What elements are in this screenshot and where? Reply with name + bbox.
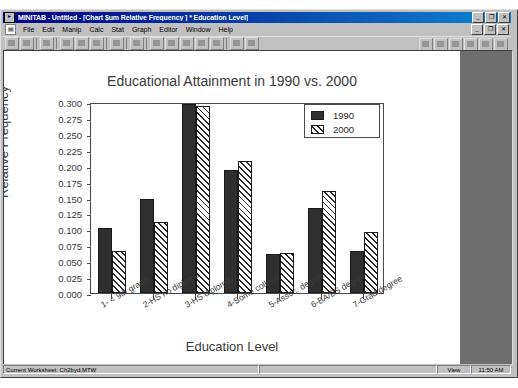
open-worksheet-icon[interactable]	[5, 37, 19, 50]
mdi-client-area: Educational Attainment in 1990 vs. 2000 …	[3, 50, 513, 365]
document-icon[interactable]: ▤	[5, 24, 16, 35]
y-tick-label: 0.125	[58, 209, 82, 220]
child-restore-button[interactable]: ❐	[484, 24, 496, 35]
bar-2000[interactable]	[196, 106, 210, 293]
menu-bar: ▤ File Edit Manip Calc Stat Graph Editor…	[3, 24, 511, 35]
toolbar-separator	[55, 38, 59, 49]
menu-item-calc[interactable]: Calc	[85, 25, 107, 35]
minimize-button[interactable]: _	[472, 12, 484, 23]
y-tick-label: 0.275	[58, 113, 82, 124]
toolbar	[3, 36, 511, 49]
y-tick-label: 0.025	[58, 273, 82, 284]
x-axis-title: Education Level	[4, 339, 460, 354]
save-project-icon[interactable]	[20, 37, 34, 50]
window-controls: _ ❐ ✕	[472, 12, 510, 23]
legend-swatch-2000	[311, 125, 324, 134]
toolbar-separator	[35, 38, 39, 49]
legend-entry-1990: 1990	[311, 108, 379, 122]
legend-label-1990: 1990	[333, 110, 354, 121]
menu-item-file[interactable]: File	[19, 25, 38, 35]
minitab-main-window: ▸ MINITAB - Untitled - [Chart $um Relati…	[0, 9, 518, 378]
toolbar-separator	[225, 38, 229, 49]
y-tick-label: 0.150	[58, 193, 82, 204]
graph-window[interactable]: Educational Attainment in 1990 vs. 2000 …	[4, 51, 460, 364]
y-tick-label: 0.225	[58, 145, 82, 156]
print-icon[interactable]	[40, 37, 54, 50]
toolbar-separator	[145, 38, 149, 49]
window-title: MINITAB - Untitled - [Chart $um Relative…	[18, 14, 248, 21]
y-tick-label: 0.250	[58, 129, 82, 140]
child-close-button[interactable]: ✕	[497, 24, 509, 35]
undo-icon[interactable]	[110, 37, 124, 50]
bar-group	[224, 104, 252, 293]
project-manager-icon[interactable]	[210, 37, 224, 50]
bar-2000[interactable]	[364, 232, 378, 293]
session-window-icon[interactable]	[150, 37, 164, 50]
bar-group	[182, 104, 210, 293]
y-tick-label: 0.175	[58, 177, 82, 188]
status-worksheet: Current Worksheet: Ch2byd.MTW	[3, 365, 259, 374]
chart-title: Educational Attainment in 1990 vs. 2000	[4, 73, 460, 89]
bar-2000[interactable]	[154, 222, 168, 293]
chart-legend: 1990 2000	[304, 104, 380, 138]
bar-1990[interactable]	[182, 104, 196, 293]
menu-item-edit[interactable]: Edit	[38, 25, 58, 35]
cancel-icon[interactable]	[230, 37, 244, 50]
restore-button[interactable]: ❐	[485, 12, 497, 23]
child-minimize-button[interactable]: _	[471, 24, 483, 35]
y-tick-label: 0.050	[58, 257, 82, 268]
menu-item-stat[interactable]: Stat	[107, 25, 127, 35]
y-tick-label: 0.300	[58, 98, 82, 109]
current-data-window-icon[interactable]	[165, 37, 179, 50]
y-tick-label: 0.200	[58, 161, 82, 172]
menu-item-editor[interactable]: Editor	[155, 25, 181, 35]
menu-item-window[interactable]: Window	[182, 25, 215, 35]
help-pointer-icon[interactable]	[245, 37, 259, 50]
minitab-icon: ▸	[4, 12, 15, 23]
title-bar[interactable]: ▸ MINITAB - Untitled - [Chart $um Relati…	[3, 12, 511, 23]
menu-item-graph[interactable]: Graph	[128, 25, 155, 35]
bar-1990[interactable]	[98, 228, 112, 293]
toolbar-separator	[105, 38, 109, 49]
copy-icon[interactable]	[75, 37, 89, 50]
paste-icon[interactable]	[90, 37, 104, 50]
find-icon[interactable]	[130, 37, 144, 50]
status-message	[259, 365, 437, 374]
menu-item-help[interactable]: Help	[215, 25, 237, 35]
bar-chart: Educational Attainment in 1990 vs. 2000 …	[4, 51, 460, 364]
status-time: 11:50 AM	[471, 365, 511, 374]
legend-label-2000: 2000	[333, 124, 354, 135]
bar-2000[interactable]	[238, 161, 252, 293]
child-window-controls: _ ❐ ✕	[471, 24, 509, 35]
menu-item-manip[interactable]: Manip	[58, 25, 85, 35]
cut-icon[interactable]	[60, 37, 74, 50]
bar-group	[266, 104, 294, 293]
status-mode: View	[437, 365, 471, 374]
x-axis-labels: 1- < 9th grade2-HS no diploma3-HS diplom…	[4, 297, 460, 343]
bar-group	[98, 104, 126, 293]
status-bar: Current Worksheet: Ch2byd.MTW View 11:50…	[3, 364, 511, 375]
toolbar-separator	[125, 38, 129, 49]
y-axis-title: Relative Frequency	[3, 86, 11, 198]
legend-entry-2000: 2000	[311, 122, 379, 136]
show-info-icon[interactable]	[180, 37, 194, 50]
history-icon[interactable]	[195, 37, 209, 50]
close-button[interactable]: ✕	[498, 12, 510, 23]
legend-swatch-1990	[311, 111, 324, 120]
mdi-background	[460, 51, 512, 364]
y-axis-labels: 0.0000.0250.0500.0750.1000.1250.1500.175…	[4, 103, 90, 294]
y-tick-label: 0.075	[58, 241, 82, 252]
y-tick-label: 0.100	[58, 225, 82, 236]
bar-group	[140, 104, 168, 293]
